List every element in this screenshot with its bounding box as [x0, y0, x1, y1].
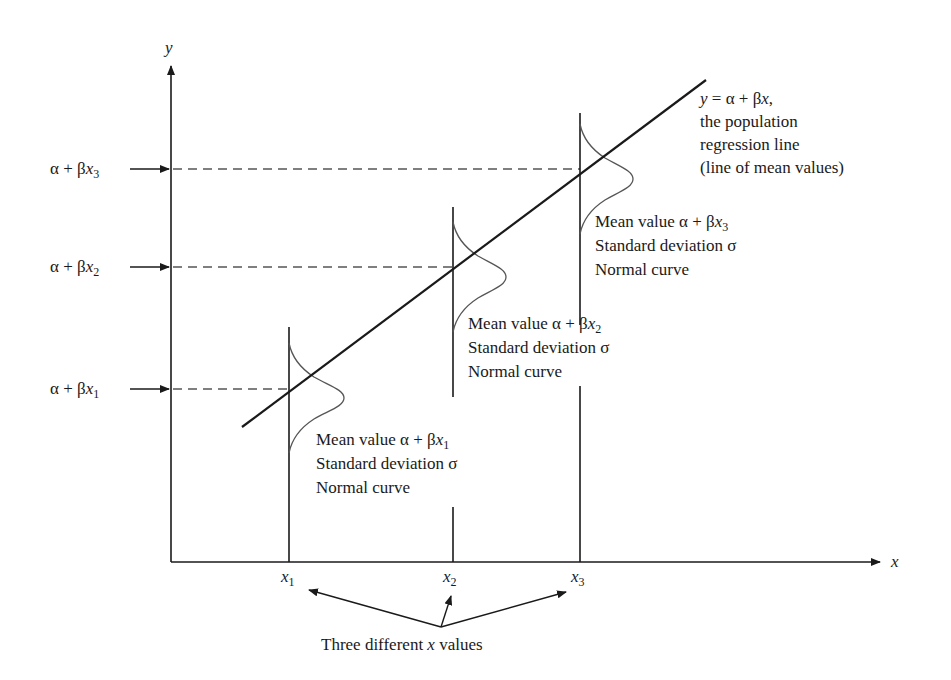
regression-equation: y = α + βx, — [700, 87, 844, 110]
mean-line: Mean value α + βx1 — [316, 428, 457, 452]
marker-sub: 3 — [93, 167, 99, 181]
tick-var: x — [443, 567, 451, 586]
eq-y: y — [700, 89, 708, 108]
tick-var: x — [571, 567, 579, 586]
marker-prefix: α + β — [50, 257, 86, 276]
marker-prefix: α + β — [50, 159, 86, 178]
tick-sub: 3 — [579, 575, 585, 589]
x-tick-2: x2 — [443, 566, 457, 588]
caption: Three different x values — [321, 634, 483, 656]
marker-sub: 1 — [93, 387, 99, 401]
sd-line: Standard deviation σ — [595, 234, 736, 258]
caption-arrow-x1 — [309, 590, 441, 627]
mean-sub: 2 — [595, 322, 601, 336]
shape-line: Normal curve — [316, 476, 457, 500]
mean-line: Mean value α + βx2 — [468, 312, 609, 336]
y-marker-label-1: α + βx1 — [50, 378, 99, 400]
distribution-label-1: Mean value α + βx1 Standard deviation σ … — [316, 428, 457, 500]
caption-post: values — [435, 635, 483, 654]
caption-arrow-x2 — [441, 596, 451, 627]
tick-sub: 1 — [289, 575, 295, 589]
regression-desc-3: (line of mean values) — [700, 156, 844, 179]
eq-mid: = α + β — [708, 89, 762, 108]
mean-prefix: Mean value α + β — [595, 212, 715, 231]
x-axis-label: x — [891, 551, 899, 573]
tick-sub: 2 — [451, 575, 457, 589]
y-marker-label-3: α + βx3 — [50, 158, 99, 180]
x-tick-3: x3 — [571, 566, 585, 588]
regression-desc-1: the population — [700, 110, 844, 133]
regression-desc-2: regression line — [700, 133, 844, 156]
caption-var: x — [427, 635, 435, 654]
eq-end: , — [769, 89, 773, 108]
mean-sub: 3 — [722, 220, 728, 234]
shape-line: Normal curve — [468, 360, 609, 384]
mean-line: Mean value α + βx3 — [595, 210, 736, 234]
caption-arrow-x3 — [441, 592, 566, 627]
sd-line: Standard deviation σ — [316, 452, 457, 476]
mean-sub: 1 — [443, 438, 449, 452]
eq-x: x — [761, 89, 769, 108]
caption-pre: Three different — [321, 635, 427, 654]
distribution-label-2: Mean value α + βx2 Standard deviation σ … — [468, 312, 609, 384]
marker-prefix: α + β — [50, 379, 86, 398]
mean-prefix: Mean value α + β — [468, 314, 588, 333]
y-axis-label: y — [165, 37, 173, 59]
sd-line: Standard deviation σ — [468, 336, 609, 360]
tick-var: x — [281, 567, 289, 586]
regression-label: y = α + βx, the population regression li… — [700, 87, 844, 179]
mean-prefix: Mean value α + β — [316, 430, 436, 449]
marker-sub: 2 — [93, 265, 99, 279]
shape-line: Normal curve — [595, 258, 736, 282]
x-tick-1: x1 — [281, 566, 295, 588]
distribution-label-3: Mean value α + βx3 Standard deviation σ … — [595, 210, 736, 282]
y-marker-label-2: α + βx2 — [50, 256, 99, 278]
